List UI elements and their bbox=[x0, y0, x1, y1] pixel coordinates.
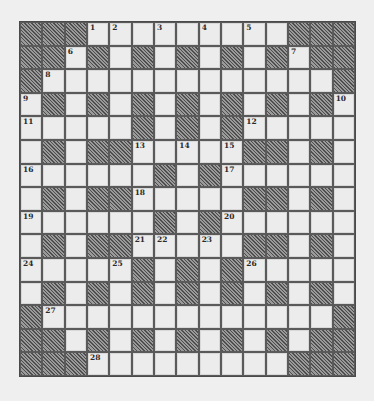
answer-cell[interactable] bbox=[154, 258, 176, 282]
answer-cell[interactable] bbox=[310, 116, 332, 140]
answer-cell[interactable] bbox=[333, 187, 355, 211]
answer-cell[interactable]: 8 bbox=[42, 69, 64, 93]
answer-cell[interactable] bbox=[333, 116, 355, 140]
answer-cell[interactable]: 9 bbox=[20, 93, 42, 117]
answer-cell[interactable] bbox=[109, 69, 131, 93]
answer-cell[interactable] bbox=[266, 69, 288, 93]
answer-cell[interactable] bbox=[87, 164, 109, 188]
answer-cell[interactable] bbox=[65, 211, 87, 235]
answer-cell[interactable]: 24 bbox=[20, 258, 42, 282]
answer-cell[interactable] bbox=[310, 211, 332, 235]
answer-cell[interactable] bbox=[243, 329, 265, 353]
answer-cell[interactable] bbox=[176, 211, 198, 235]
answer-cell[interactable] bbox=[20, 140, 42, 164]
answer-cell[interactable] bbox=[65, 258, 87, 282]
answer-cell[interactable] bbox=[199, 187, 221, 211]
answer-cell[interactable] bbox=[65, 164, 87, 188]
answer-cell[interactable] bbox=[65, 116, 87, 140]
answer-cell[interactable] bbox=[87, 116, 109, 140]
answer-cell[interactable] bbox=[42, 164, 64, 188]
answer-cell[interactable]: 3 bbox=[154, 22, 176, 46]
answer-cell[interactable]: 21 bbox=[132, 234, 154, 258]
answer-cell[interactable] bbox=[65, 187, 87, 211]
answer-cell[interactable] bbox=[87, 211, 109, 235]
answer-cell[interactable] bbox=[221, 22, 243, 46]
answer-cell[interactable] bbox=[154, 329, 176, 353]
answer-cell[interactable] bbox=[310, 69, 332, 93]
answer-cell[interactable] bbox=[20, 234, 42, 258]
answer-cell[interactable] bbox=[288, 116, 310, 140]
answer-cell[interactable] bbox=[199, 93, 221, 117]
answer-cell[interactable]: 11 bbox=[20, 116, 42, 140]
answer-cell[interactable]: 25 bbox=[109, 258, 131, 282]
answer-cell[interactable] bbox=[87, 305, 109, 329]
answer-cell[interactable] bbox=[109, 352, 131, 376]
answer-cell[interactable] bbox=[42, 258, 64, 282]
answer-cell[interactable] bbox=[288, 234, 310, 258]
answer-cell[interactable] bbox=[288, 305, 310, 329]
answer-cell[interactable] bbox=[154, 305, 176, 329]
answer-cell[interactable] bbox=[176, 164, 198, 188]
answer-cell[interactable] bbox=[266, 305, 288, 329]
answer-cell[interactable]: 12 bbox=[243, 116, 265, 140]
answer-cell[interactable]: 20 bbox=[221, 211, 243, 235]
answer-cell[interactable] bbox=[288, 187, 310, 211]
answer-cell[interactable] bbox=[221, 305, 243, 329]
answer-cell[interactable] bbox=[154, 282, 176, 306]
answer-cell[interactable] bbox=[266, 22, 288, 46]
answer-cell[interactable] bbox=[199, 352, 221, 376]
answer-cell[interactable] bbox=[288, 140, 310, 164]
answer-cell[interactable] bbox=[333, 234, 355, 258]
answer-cell[interactable] bbox=[288, 211, 310, 235]
answer-cell[interactable] bbox=[109, 329, 131, 353]
answer-cell[interactable]: 23 bbox=[199, 234, 221, 258]
answer-cell[interactable] bbox=[243, 305, 265, 329]
answer-cell[interactable] bbox=[243, 352, 265, 376]
answer-cell[interactable] bbox=[310, 164, 332, 188]
answer-cell[interactable] bbox=[176, 305, 198, 329]
answer-cell[interactable] bbox=[154, 140, 176, 164]
answer-cell[interactable] bbox=[65, 234, 87, 258]
answer-cell[interactable]: 22 bbox=[154, 234, 176, 258]
answer-cell[interactable] bbox=[333, 140, 355, 164]
answer-cell[interactable] bbox=[333, 164, 355, 188]
answer-cell[interactable] bbox=[65, 140, 87, 164]
answer-cell[interactable] bbox=[266, 116, 288, 140]
answer-cell[interactable] bbox=[288, 164, 310, 188]
answer-cell[interactable] bbox=[42, 211, 64, 235]
answer-cell[interactable]: 16 bbox=[20, 164, 42, 188]
answer-cell[interactable] bbox=[288, 93, 310, 117]
answer-cell[interactable] bbox=[199, 258, 221, 282]
answer-cell[interactable] bbox=[65, 93, 87, 117]
answer-cell[interactable] bbox=[288, 329, 310, 353]
answer-cell[interactable] bbox=[109, 116, 131, 140]
answer-cell[interactable]: 27 bbox=[42, 305, 64, 329]
answer-cell[interactable] bbox=[65, 305, 87, 329]
answer-cell[interactable] bbox=[132, 211, 154, 235]
answer-cell[interactable]: 17 bbox=[221, 164, 243, 188]
answer-cell[interactable] bbox=[243, 69, 265, 93]
answer-cell[interactable] bbox=[266, 258, 288, 282]
answer-cell[interactable] bbox=[199, 282, 221, 306]
answer-cell[interactable] bbox=[154, 93, 176, 117]
answer-cell[interactable]: 7 bbox=[288, 46, 310, 70]
answer-cell[interactable] bbox=[154, 352, 176, 376]
answer-cell[interactable] bbox=[199, 305, 221, 329]
answer-cell[interactable]: 13 bbox=[132, 140, 154, 164]
answer-cell[interactable]: 5 bbox=[243, 22, 265, 46]
answer-cell[interactable]: 10 bbox=[333, 93, 355, 117]
answer-cell[interactable]: 19 bbox=[20, 211, 42, 235]
answer-cell[interactable] bbox=[87, 69, 109, 93]
answer-cell[interactable] bbox=[132, 164, 154, 188]
answer-cell[interactable] bbox=[132, 352, 154, 376]
answer-cell[interactable] bbox=[199, 329, 221, 353]
answer-cell[interactable] bbox=[176, 234, 198, 258]
answer-cell[interactable] bbox=[176, 187, 198, 211]
answer-cell[interactable] bbox=[154, 69, 176, 93]
answer-cell[interactable] bbox=[65, 69, 87, 93]
answer-cell[interactable]: 14 bbox=[176, 140, 198, 164]
answer-cell[interactable] bbox=[243, 282, 265, 306]
answer-cell[interactable] bbox=[154, 187, 176, 211]
answer-cell[interactable] bbox=[109, 93, 131, 117]
answer-cell[interactable] bbox=[199, 46, 221, 70]
